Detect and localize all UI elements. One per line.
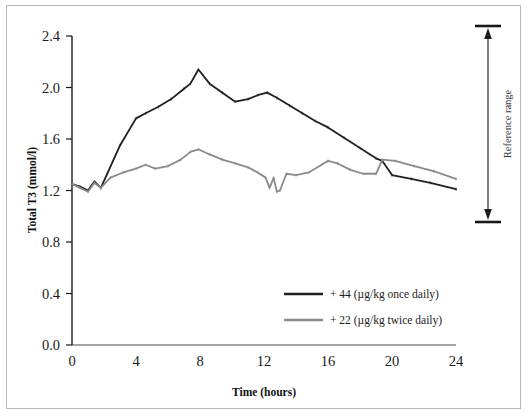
y-tick-label: 0.4	[42, 286, 61, 302]
x-tick-label: 8	[196, 353, 203, 369]
figure-page: 0.00.40.81.21.62.02.4 04812162024 Total …	[0, 0, 529, 416]
reference-range-arrowhead-down	[484, 209, 492, 220]
x-axis-ticks: 04812162024	[68, 353, 464, 369]
chart-legend: + 44 (µg/kg once daily) + 22 (µg/kg twic…	[284, 288, 442, 327]
chart-canvas: 0.00.40.81.21.62.02.4 04812162024 Total …	[0, 0, 529, 416]
series-line-2	[72, 149, 456, 191]
reference-range-label: Reference range	[502, 89, 513, 158]
legend-label-series-2: + 22 (µg/kg twice daily)	[330, 314, 442, 327]
x-tick-label: 16	[321, 353, 336, 369]
y-tick-label: 2.4	[42, 28, 61, 44]
y-tick-label: 0.8	[42, 234, 60, 250]
x-tick-label: 0	[68, 353, 75, 369]
y-axis-ticks: 0.00.40.81.21.62.02.4	[42, 28, 72, 353]
x-tick-label: 20	[385, 353, 400, 369]
reference-range-annotation: Reference range	[475, 26, 513, 222]
x-tick-label: 12	[257, 353, 272, 369]
legend-label-series-1: + 44 (µg/kg once daily)	[330, 288, 439, 301]
y-tick-label: 0.0	[42, 337, 60, 353]
y-tick-label: 1.2	[42, 183, 60, 199]
reference-range-arrowhead-up	[484, 28, 492, 39]
x-axis-title: Time (hours)	[232, 386, 296, 399]
y-tick-label: 1.6	[42, 131, 60, 147]
y-axis-title: Total T3 (mmol/l)	[26, 147, 39, 233]
x-tick-label: 4	[132, 353, 140, 369]
series-line-1	[72, 69, 456, 190]
x-tick-label: 24	[449, 353, 464, 369]
y-tick-label: 2.0	[42, 80, 60, 96]
data-series-group	[72, 68, 456, 194]
